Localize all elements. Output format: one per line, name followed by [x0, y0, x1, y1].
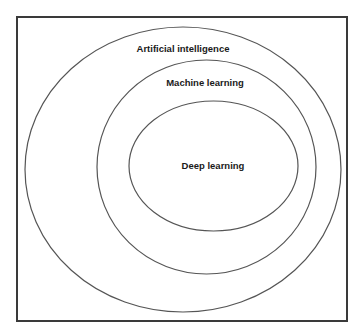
ai-ml-dl-diagram: Artificial intelligence Machine learning…: [0, 0, 364, 331]
artificial-intelligence-label: Artificial intelligence: [137, 43, 230, 54]
machine-learning-label: Machine learning: [166, 77, 244, 88]
deep-learning-label: Deep learning: [182, 160, 245, 171]
